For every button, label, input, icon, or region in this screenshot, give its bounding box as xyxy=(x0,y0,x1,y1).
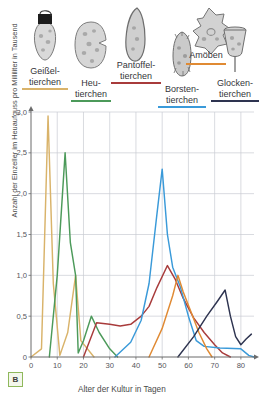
x-tick-label: 10 xyxy=(53,361,61,370)
x-axis-label: Alter der Kultur in Tagen xyxy=(78,385,166,394)
organism-label-line1: Geißel- xyxy=(30,66,60,76)
y-axis-label: Anzahl der Einzeller im Heuaufguss pro M… xyxy=(10,68,19,218)
organism-label-line2: tierchen xyxy=(29,77,61,87)
figure-panel: Geißel- tierchen Heu- tierchen xyxy=(0,0,260,404)
x-tick-label: 0 xyxy=(29,361,33,370)
organism-label-line1: Pantoffel- xyxy=(117,60,155,70)
organism-legend-strip: Geißel- tierchen Heu- tierchen xyxy=(0,0,260,112)
organism-label-line1: Heu- xyxy=(81,78,101,88)
x-tick-label: 80 xyxy=(237,361,245,370)
chart-svg: 00,51,01,52,02,53,001020304050607080 xyxy=(0,104,260,372)
organism-label: Borsten- tierchen xyxy=(165,84,199,105)
x-tick-label: 50 xyxy=(158,361,166,370)
organism-label-line2: tierchen xyxy=(219,89,251,99)
organism-color-underline xyxy=(71,100,111,102)
y-axis-arrow xyxy=(28,106,33,111)
series-line-geißeltierchen xyxy=(31,116,94,357)
x-tick-label: 20 xyxy=(79,361,87,370)
organism-label-line1: Glocken- xyxy=(217,78,253,88)
organism-label-line2: tierchen xyxy=(75,89,107,99)
organism-color-underline xyxy=(211,100,259,102)
y-tick-label: 0,5 xyxy=(16,312,27,321)
x-tick-label: 30 xyxy=(105,361,113,370)
organism-label: Pantoffel- tierchen xyxy=(117,60,155,81)
x-tick-label: 70 xyxy=(210,361,218,370)
y-tick-label: 0 xyxy=(23,353,27,362)
flagellate-icon xyxy=(27,10,63,64)
organism-label: Heu- tierchen xyxy=(75,78,107,99)
organism-label-line2: tierchen xyxy=(120,71,152,81)
vorticella-icon xyxy=(220,22,250,74)
x-tick-label: 40 xyxy=(132,361,140,370)
y-tick-label: 1,0 xyxy=(16,271,27,280)
line-chart: 00,51,01,52,02,53,001020304050607080 xyxy=(0,104,260,372)
organism-label: Geißel- tierchen xyxy=(29,66,61,87)
organism-label: Glocken- tierchen xyxy=(217,78,253,99)
organism-label-line2: tierchen xyxy=(166,95,198,105)
paramecium-icon xyxy=(122,6,150,64)
panel-label-b: B xyxy=(8,372,23,387)
y-tick-label: 1,5 xyxy=(16,230,27,239)
organism-glockentierchen: Glocken- tierchen xyxy=(208,22,260,114)
x-axis-arrow xyxy=(254,354,259,359)
x-tick-label: 60 xyxy=(184,361,192,370)
